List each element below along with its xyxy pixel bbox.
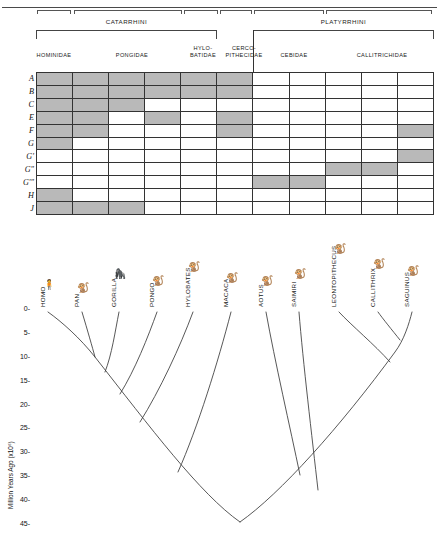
matrix-cell-rG-c5[interactable] (181, 137, 217, 150)
matrix-cell-rGq-c5[interactable] (181, 163, 217, 176)
matrix-cell-rJ-c7[interactable] (253, 202, 289, 215)
matrix-cell-rC-c3[interactable] (109, 98, 145, 111)
matrix-cell-rJ-c2[interactable] (73, 202, 109, 215)
matrix-cell-rJ-c10[interactable] (361, 202, 397, 215)
matrix-cell-rH-c11[interactable] (397, 189, 433, 202)
matrix-cell-rF-c1[interactable] (37, 124, 73, 137)
matrix-cell-rC-c11[interactable] (397, 98, 433, 111)
matrix-cell-rE-c11[interactable] (397, 111, 433, 124)
matrix-cell-rF-c6[interactable] (217, 124, 253, 137)
matrix-cell-rC-c10[interactable] (361, 98, 397, 111)
matrix-cell-rE-c6[interactable] (217, 111, 253, 124)
matrix-cell-rGp-c9[interactable] (325, 150, 361, 163)
matrix-cell-rGp-c1[interactable] (37, 150, 73, 163)
matrix-cell-rB-c2[interactable] (73, 85, 109, 98)
matrix-cell-rC-c9[interactable] (325, 98, 361, 111)
matrix-cell-rJ-c1[interactable] (37, 202, 73, 215)
matrix-cell-rE-c8[interactable] (289, 111, 325, 124)
matrix-cell-rC-c4[interactable] (145, 98, 181, 111)
matrix-cell-rC-c6[interactable] (217, 98, 253, 111)
matrix-cell-rGp-c10[interactable] (361, 150, 397, 163)
matrix-cell-rF-c4[interactable] (145, 124, 181, 137)
matrix-cell-rGq-c3[interactable] (109, 163, 145, 176)
matrix-cell-rA-c8[interactable] (289, 73, 325, 86)
matrix-cell-rG-c9[interactable] (325, 137, 361, 150)
matrix-cell-rJ-c4[interactable] (145, 202, 181, 215)
matrix-cell-rGp-c4[interactable] (145, 150, 181, 163)
matrix-cell-rB-c3[interactable] (109, 85, 145, 98)
matrix-cell-rC-c2[interactable] (73, 98, 109, 111)
matrix-cell-rGp-c11[interactable] (397, 150, 433, 163)
matrix-cell-rA-c5[interactable] (181, 73, 217, 86)
matrix-cell-rE-c7[interactable] (253, 111, 289, 124)
matrix-cell-rGp-c2[interactable] (73, 150, 109, 163)
matrix-cell-rJ-c8[interactable] (289, 202, 325, 215)
matrix-cell-rH-c7[interactable] (253, 189, 289, 202)
matrix-cell-rF-c11[interactable] (397, 124, 433, 137)
matrix-cell-rG-c4[interactable] (145, 137, 181, 150)
matrix-cell-rF-c10[interactable] (361, 124, 397, 137)
matrix-cell-rF-c7[interactable] (253, 124, 289, 137)
matrix-cell-rGpq-c3[interactable] (109, 176, 145, 189)
matrix-cell-rGpq-c2[interactable] (73, 176, 109, 189)
matrix-cell-rB-c1[interactable] (37, 85, 73, 98)
matrix-cell-rE-c10[interactable] (361, 111, 397, 124)
matrix-cell-rJ-c5[interactable] (181, 202, 217, 215)
matrix-cell-rA-c2[interactable] (73, 73, 109, 86)
matrix-cell-rGq-c9[interactable] (325, 163, 361, 176)
matrix-cell-rE-c2[interactable] (73, 111, 109, 124)
matrix-cell-rG-c10[interactable] (361, 137, 397, 150)
matrix-cell-rH-c1[interactable] (37, 189, 73, 202)
matrix-cell-rH-c6[interactable] (217, 189, 253, 202)
matrix-cell-rA-c10[interactable] (361, 73, 397, 86)
matrix-cell-rF-c3[interactable] (109, 124, 145, 137)
matrix-cell-rJ-c3[interactable] (109, 202, 145, 215)
matrix-cell-rH-c5[interactable] (181, 189, 217, 202)
matrix-cell-rGq-c6[interactable] (217, 163, 253, 176)
matrix-cell-rF-c2[interactable] (73, 124, 109, 137)
matrix-cell-rH-c2[interactable] (73, 189, 109, 202)
matrix-cell-rGpq-c1[interactable] (37, 176, 73, 189)
matrix-cell-rB-c9[interactable] (325, 85, 361, 98)
matrix-cell-rC-c8[interactable] (289, 98, 325, 111)
matrix-cell-rG-c7[interactable] (253, 137, 289, 150)
matrix-cell-rJ-c6[interactable] (217, 202, 253, 215)
matrix-cell-rGp-c5[interactable] (181, 150, 217, 163)
matrix-cell-rG-c8[interactable] (289, 137, 325, 150)
matrix-cell-rJ-c11[interactable] (397, 202, 433, 215)
matrix-cell-rA-c3[interactable] (109, 73, 145, 86)
matrix-cell-rGpq-c6[interactable] (217, 176, 253, 189)
matrix-cell-rGq-c10[interactable] (361, 163, 397, 176)
matrix-cell-rGpq-c10[interactable] (361, 176, 397, 189)
matrix-cell-rB-c7[interactable] (253, 85, 289, 98)
matrix-cell-rGpq-c9[interactable] (325, 176, 361, 189)
matrix-cell-rB-c5[interactable] (181, 85, 217, 98)
matrix-cell-rJ-c9[interactable] (325, 202, 361, 215)
matrix-cell-rA-c4[interactable] (145, 73, 181, 86)
matrix-cell-rB-c10[interactable] (361, 85, 397, 98)
matrix-cell-rGq-c8[interactable] (289, 163, 325, 176)
matrix-cell-rC-c7[interactable] (253, 98, 289, 111)
matrix-cell-rE-c1[interactable] (37, 111, 73, 124)
matrix-cell-rE-c4[interactable] (145, 111, 181, 124)
matrix-cell-rB-c8[interactable] (289, 85, 325, 98)
matrix-cell-rGpq-c7[interactable] (253, 176, 289, 189)
matrix-cell-rH-c4[interactable] (145, 189, 181, 202)
matrix-cell-rF-c5[interactable] (181, 124, 217, 137)
matrix-cell-rG-c1[interactable] (37, 137, 73, 150)
matrix-cell-rA-c7[interactable] (253, 73, 289, 86)
matrix-cell-rB-c4[interactable] (145, 85, 181, 98)
matrix-cell-rGpq-c8[interactable] (289, 176, 325, 189)
matrix-cell-rF-c8[interactable] (289, 124, 325, 137)
matrix-cell-rG-c6[interactable] (217, 137, 253, 150)
matrix-cell-rGpq-c5[interactable] (181, 176, 217, 189)
matrix-cell-rGp-c8[interactable] (289, 150, 325, 163)
matrix-cell-rGq-c2[interactable] (73, 163, 109, 176)
matrix-cell-rH-c3[interactable] (109, 189, 145, 202)
matrix-cell-rA-c6[interactable] (217, 73, 253, 86)
matrix-cell-rH-c8[interactable] (289, 189, 325, 202)
matrix-cell-rF-c9[interactable] (325, 124, 361, 137)
matrix-cell-rGpq-c4[interactable] (145, 176, 181, 189)
matrix-cell-rE-c3[interactable] (109, 111, 145, 124)
matrix-cell-rGq-c11[interactable] (397, 163, 433, 176)
